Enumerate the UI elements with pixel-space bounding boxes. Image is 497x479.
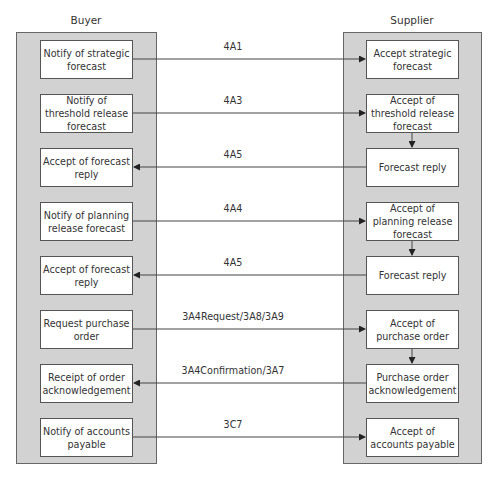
message-label: 3A4Confirmation/3A7 bbox=[133, 365, 333, 376]
buyer-step: Notify of strategic forecast bbox=[40, 40, 133, 79]
message-label: 4A5 bbox=[133, 149, 333, 160]
message-label: 4A4 bbox=[133, 203, 333, 214]
buyer-step: Notify of threshold release forecast bbox=[40, 94, 133, 133]
message-label: 4A1 bbox=[133, 41, 333, 52]
buyer-step: Notify of accounts payable bbox=[40, 418, 133, 457]
supplier-step: Forecast reply bbox=[366, 148, 459, 187]
buyer-step: Notify of planning release forecast bbox=[40, 202, 133, 241]
supplier-step: Accept of threshold release forecast bbox=[366, 94, 459, 133]
message-label: 3C7 bbox=[133, 419, 333, 430]
message-label: 3A4Request/3A8/3A9 bbox=[133, 311, 333, 322]
supplier-step: Forecast reply bbox=[366, 256, 459, 295]
supplier-step: Accept strategic forecast bbox=[366, 40, 459, 79]
supplier-step: Accept of planning release forecast bbox=[366, 202, 459, 241]
supplier-step: Accept of accounts payable bbox=[366, 418, 459, 457]
message-label: 4A5 bbox=[133, 257, 333, 268]
buyer-step: Request purchase order bbox=[40, 310, 133, 349]
buyer-step: Receipt of order acknowledgement bbox=[40, 364, 133, 403]
supplier-step: Accept of purchase order bbox=[366, 310, 459, 349]
buyer-step: Accept of forecast reply bbox=[40, 148, 133, 187]
supplier-step: Purchase order acknowledgement bbox=[366, 364, 459, 403]
buyer-step: Accept of forecast reply bbox=[40, 256, 133, 295]
message-label: 4A3 bbox=[133, 95, 333, 106]
